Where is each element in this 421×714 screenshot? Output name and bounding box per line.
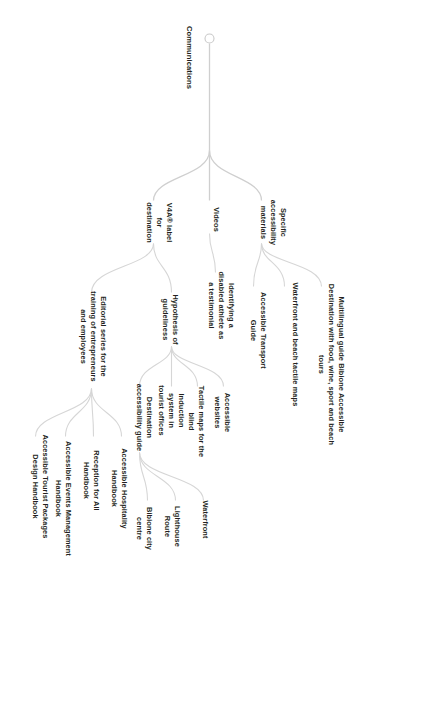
link-root-b3 <box>153 150 209 200</box>
link-b3-c1 <box>153 243 171 292</box>
link-d4-e3 <box>139 452 147 500</box>
node-bibione-city-centre[interactable]: Bibione city centre <box>133 496 153 560</box>
node-hypothesis-of-guideliness[interactable]: Hypothesis of guideliness <box>159 288 179 350</box>
node-accessible-websites[interactable]: Accessible websites <box>211 382 231 442</box>
link-e-d3 <box>65 388 91 436</box>
node-lighthouse-route[interactable]: Lighthouse Route <box>161 496 181 556</box>
link-root-b1 <box>209 150 261 200</box>
node-multilingual-guide[interactable]: Multilingual guide Bibione Accessible De… <box>315 282 345 446</box>
mindmap-canvas: Communications Specific accessibility ma… <box>0 0 421 714</box>
node-accessible-transport-guide[interactable]: Accessible Transport Guide <box>247 282 267 378</box>
node-accessible-hospitality-handbook[interactable]: Accessible Hospitality Handbook <box>108 432 128 544</box>
link-b2-c1 <box>209 233 215 272</box>
link-b1-c3 <box>253 243 261 286</box>
link-b1-c1 <box>261 243 321 286</box>
node-induction-system-tourist-offices[interactable]: Induction system in tourist offices <box>155 382 185 438</box>
link-e-d1 <box>91 388 121 436</box>
mindmap-stage: Communications Specific accessibility ma… <box>0 0 421 714</box>
link-b3-c2 <box>91 243 153 292</box>
node-waterfront[interactable]: Waterfront <box>199 496 209 542</box>
node-root[interactable]: Communications <box>183 22 193 92</box>
node-destination-accessibility-guide[interactable]: Destination accessibility guide <box>133 382 153 452</box>
node-v4a-label-for-destination[interactable]: V4A® label for destination <box>143 198 173 246</box>
node-accessible-tourist-packages-design-handbook[interactable]: Accessible Tourist Packages Design Handb… <box>29 432 49 540</box>
branch-connectors <box>0 0 421 714</box>
link-h-d4 <box>139 346 171 386</box>
node-specific-accessibility-materials[interactable]: Specific accessibility materials <box>257 196 287 248</box>
node-tactile-maps-for-the-blind[interactable]: Tactile maps for the blind <box>185 382 205 460</box>
link-e-d4 <box>35 388 91 436</box>
link-h-d2 <box>171 346 197 386</box>
node-identifying-disabled-athlete[interactable]: Identifying a disabled athlete as a test… <box>205 268 235 342</box>
root-node-marker <box>205 34 214 43</box>
node-videos[interactable]: Videos <box>210 204 220 234</box>
node-editorial-series-training[interactable]: Editorial series for the training of ent… <box>77 288 107 384</box>
node-waterfront-beach-tactile-maps[interactable]: Waterfront and beach tactile maps <box>289 282 299 406</box>
node-accessible-events-management-handbook[interactable]: Accessible Events Management Handbook <box>52 432 72 564</box>
node-reception-for-all-handbook[interactable]: Reception for All Handbook <box>80 432 100 528</box>
